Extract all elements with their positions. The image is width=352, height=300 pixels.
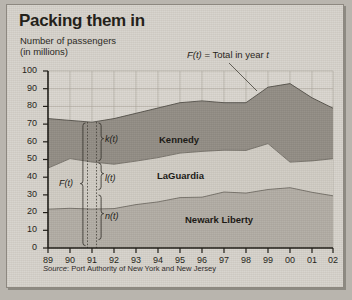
chart-svg [7, 5, 343, 287]
y-tick-label: 70 [15, 118, 37, 128]
y-tick-label: 100 [15, 65, 37, 75]
annotation-kennedy-kt: k(t) [105, 134, 118, 144]
y-tick-label: 60 [15, 136, 37, 146]
annotation-laguardia-lt: l(t) [105, 173, 116, 183]
x-tick-label: 01 [302, 255, 322, 265]
source-note: Source: Port Authority of New York and N… [43, 264, 216, 273]
y-tick-label: 50 [15, 153, 37, 163]
x-tick-label: 99 [258, 255, 278, 265]
series-label-laguardia: LaGuardia [157, 170, 204, 181]
series-label-newark: Newark Liberty [185, 214, 253, 225]
plot-area: 100 90 80 70 60 50 40 30 20 10 0 89 90 9… [7, 5, 343, 287]
x-tick-label: 00 [280, 255, 300, 265]
x-tick-label: 98 [236, 255, 256, 265]
y-tick-label: 90 [15, 83, 37, 93]
annotation-total-ft: F(t) [59, 178, 73, 188]
annotation-newark-nt: n(t) [105, 211, 119, 221]
chart-figure: Packing them in Number of passengers (in… [6, 4, 344, 288]
source-value: : Port Authority of New York and New Jer… [67, 264, 216, 273]
y-tick-label: 10 [15, 224, 37, 234]
y-tick-label: 20 [15, 206, 37, 216]
source-label: Source [43, 264, 67, 273]
x-tick-label: 02 [323, 255, 343, 265]
x-tick-label: 97 [214, 255, 234, 265]
series-label-kennedy: Kennedy [159, 134, 199, 145]
y-tick-label: 80 [15, 100, 37, 110]
y-tick-label: 0 [15, 242, 37, 252]
y-tick-label: 40 [15, 171, 37, 181]
y-tick-label: 30 [15, 189, 37, 199]
